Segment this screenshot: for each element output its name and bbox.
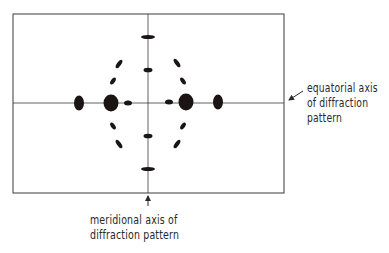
- layer-line-reflection-spot: [172, 58, 181, 68]
- layer-line-reflection-spot: [179, 77, 187, 86]
- layer-line-reflection-spot: [172, 139, 181, 149]
- equatorial-reflection-spot: [179, 94, 194, 111]
- layer-line-reflection-spot: [179, 122, 187, 131]
- meridional-label-line-2: diffraction pattern: [90, 227, 179, 242]
- equatorial-reflection-spot: [124, 101, 132, 106]
- diffraction-diagram: [0, 0, 389, 253]
- equatorial-reflection-spot: [213, 95, 223, 110]
- detector-frame: [13, 14, 284, 193]
- meridional-label-line-1: meridional axis of: [90, 212, 179, 227]
- equatorial-arrow-icon: [289, 91, 303, 100]
- equatorial-label-line-1: equatorial axis: [307, 80, 378, 95]
- equatorial-reflection-spot: [104, 95, 119, 112]
- equatorial-label-line-3: pattern: [307, 110, 378, 125]
- meridional-reflection-spot: [141, 35, 155, 39]
- layer-line-reflection-spot: [114, 139, 123, 149]
- meridional-reflection-spot: [141, 167, 155, 171]
- layer-line-reflection-spot: [114, 59, 123, 69]
- equatorial-axis-label: equatorial axis of diffraction pattern: [307, 80, 378, 125]
- meridional-axis-label: meridional axis of diffraction pattern: [90, 212, 179, 242]
- equatorial-reflection-spot: [74, 96, 84, 111]
- layer-line-reflection-spot: [109, 122, 117, 131]
- layer-line-reflection-spot: [109, 77, 117, 86]
- meridional-reflection-spot: [144, 68, 153, 73]
- equatorial-reflection-spot: [165, 100, 173, 105]
- equatorial-label-line-2: of diffraction: [307, 95, 378, 110]
- meridional-reflection-spot: [144, 134, 153, 139]
